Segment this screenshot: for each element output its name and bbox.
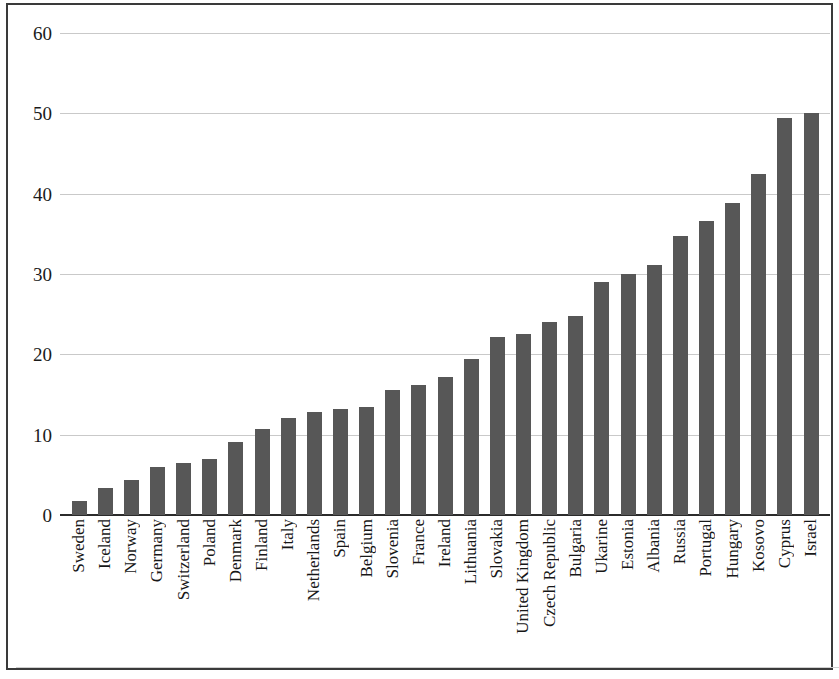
figure-page: 0102030405060 SwedenIcelandNorwayGermany… bbox=[0, 0, 839, 679]
bar-slot bbox=[667, 33, 693, 515]
bar bbox=[385, 390, 400, 515]
x-label-slot: Albania bbox=[641, 519, 667, 659]
x-axis-tick-label: France bbox=[409, 519, 429, 565]
x-label-slot: Czech Republic bbox=[537, 519, 563, 659]
bar-slot bbox=[484, 33, 510, 515]
bar-slot bbox=[406, 33, 432, 515]
bar-slot bbox=[92, 33, 118, 515]
x-label-slot: Finland bbox=[249, 519, 275, 659]
x-axis-tick-label: Lithuania bbox=[461, 519, 481, 584]
bar bbox=[490, 337, 505, 515]
bar bbox=[725, 203, 740, 515]
bar bbox=[516, 334, 531, 515]
x-label-slot: Cyprus bbox=[772, 519, 798, 659]
bar-slot bbox=[118, 33, 144, 515]
bar-slot bbox=[327, 33, 353, 515]
x-label-slot: Russia bbox=[667, 519, 693, 659]
bar-series bbox=[60, 33, 830, 515]
x-label-slot: Netherlands bbox=[301, 519, 327, 659]
bar bbox=[621, 274, 636, 515]
figure-frame: 0102030405060 SwedenIcelandNorwayGermany… bbox=[6, 3, 833, 670]
x-label-slot: Iceland bbox=[92, 519, 118, 659]
x-axis-category-labels: SwedenIcelandNorwayGermanySwitzerlandPol… bbox=[60, 519, 830, 659]
x-axis-tick-label: Slovenia bbox=[383, 519, 403, 579]
x-axis-tick-label: Bulgaria bbox=[566, 519, 586, 578]
bar bbox=[307, 412, 322, 515]
x-axis-tick-label: Switzerland bbox=[174, 519, 194, 600]
x-axis-tick-label: Portugal bbox=[696, 519, 716, 577]
bar-slot bbox=[354, 33, 380, 515]
bar bbox=[568, 316, 583, 515]
bar-slot bbox=[223, 33, 249, 515]
bar-slot bbox=[66, 33, 92, 515]
y-axis-tick-label: 30 bbox=[12, 265, 52, 284]
x-axis-tick-label: Albania bbox=[644, 519, 664, 573]
x-axis-tick-label: Spain bbox=[330, 519, 350, 558]
x-axis-tick-label: Denmark bbox=[226, 519, 246, 582]
x-axis-tick-label: Czech Republic bbox=[540, 519, 560, 627]
bar bbox=[804, 113, 819, 515]
bar-slot bbox=[537, 33, 563, 515]
bar bbox=[98, 488, 113, 515]
bar bbox=[150, 467, 165, 515]
x-axis-tick-label: Cyprus bbox=[775, 519, 795, 568]
bar bbox=[255, 429, 270, 515]
bar bbox=[228, 442, 243, 515]
x-label-slot: Norway bbox=[118, 519, 144, 659]
x-axis-tick-label: Iceland bbox=[95, 519, 115, 569]
x-axis-tick-label: Israel bbox=[801, 519, 821, 557]
bar-slot bbox=[641, 33, 667, 515]
x-label-slot: Poland bbox=[197, 519, 223, 659]
x-axis-tick-label: Estonia bbox=[618, 519, 638, 570]
x-label-slot: Sweden bbox=[66, 519, 92, 659]
bar-slot bbox=[275, 33, 301, 515]
bar bbox=[176, 463, 191, 515]
x-label-slot: Denmark bbox=[223, 519, 249, 659]
x-label-slot: Belgium bbox=[354, 519, 380, 659]
bar-slot bbox=[144, 33, 170, 515]
x-label-slot: Bulgaria bbox=[563, 519, 589, 659]
x-axis-tick-label: Kosovo bbox=[749, 519, 769, 572]
bar-slot bbox=[746, 33, 772, 515]
y-axis-tick-label: 40 bbox=[12, 184, 52, 203]
x-label-slot: Israel bbox=[798, 519, 824, 659]
bar bbox=[359, 407, 374, 515]
x-axis-tick-label: United Kingdom bbox=[513, 519, 533, 634]
bar-slot bbox=[380, 33, 406, 515]
bar bbox=[438, 377, 453, 515]
x-label-slot: Estonia bbox=[615, 519, 641, 659]
bar bbox=[751, 174, 766, 515]
bar-slot bbox=[249, 33, 275, 515]
x-label-slot: Kosovo bbox=[746, 519, 772, 659]
bar bbox=[699, 221, 714, 515]
x-axis-tick-label: Poland bbox=[200, 519, 220, 566]
x-axis-tick-label: Slovakia bbox=[487, 519, 507, 579]
bar bbox=[333, 409, 348, 515]
x-axis-tick-label: Sweden bbox=[69, 519, 89, 573]
x-label-slot: Hungary bbox=[720, 519, 746, 659]
bar-slot bbox=[301, 33, 327, 515]
x-axis-tick-label: Finland bbox=[252, 519, 272, 571]
bar bbox=[202, 459, 217, 515]
x-axis-tick-label: Russia bbox=[670, 519, 690, 564]
x-label-slot: France bbox=[406, 519, 432, 659]
x-axis-tick-label: Ireland bbox=[435, 519, 455, 567]
bar-slot bbox=[589, 33, 615, 515]
y-axis-tick-label: 60 bbox=[12, 24, 52, 43]
x-axis-tick-label: Belgium bbox=[357, 519, 377, 578]
bar bbox=[411, 385, 426, 515]
x-axis-tick-label: Hungary bbox=[723, 519, 743, 578]
bar-slot bbox=[615, 33, 641, 515]
bar bbox=[72, 501, 87, 515]
x-label-slot: Germany bbox=[144, 519, 170, 659]
x-label-slot: Ireland bbox=[432, 519, 458, 659]
bar-slot bbox=[720, 33, 746, 515]
x-axis-tick-label: Germany bbox=[147, 519, 167, 582]
bar bbox=[647, 265, 662, 515]
x-label-slot: United Kingdom bbox=[510, 519, 536, 659]
x-axis-tick-label: Netherlands bbox=[304, 519, 324, 601]
x-axis-tick-label: Ukarine bbox=[592, 519, 612, 574]
x-label-slot: Italy bbox=[275, 519, 301, 659]
x-axis-tick-label: Italy bbox=[278, 519, 298, 550]
y-axis-tick-label: 20 bbox=[12, 345, 52, 364]
